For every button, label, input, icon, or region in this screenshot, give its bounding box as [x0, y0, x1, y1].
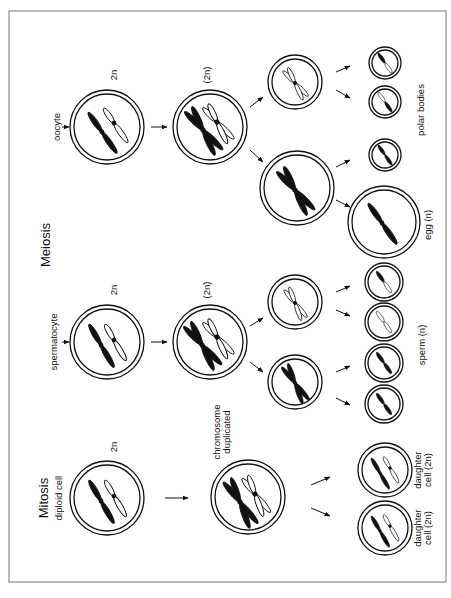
daughter-cell-label-line2: cell (2n) [422, 511, 433, 545]
spermatocyte-cell-duplicated [173, 305, 247, 379]
arrow-icon [336, 66, 350, 72]
daughter-cell [358, 501, 412, 555]
secondary-spermatocyte-cell [268, 275, 322, 329]
spermatocyte-cell-2n [70, 305, 144, 379]
mitosis-title: Mitosis [36, 477, 51, 518]
ploidy-label: 2n [108, 442, 119, 453]
arrow-icon [250, 362, 263, 372]
sperm-cell [365, 263, 403, 301]
polar-body-cell [369, 47, 401, 79]
arrow-icon [250, 97, 263, 107]
arrow-icon [336, 366, 350, 372]
daughter-cell [358, 443, 412, 497]
ploidy-label: (2n) [201, 67, 212, 84]
arrow-icon [250, 318, 263, 326]
secondary-spermatocyte-cell [268, 355, 322, 409]
polar-bodies-label: polar bodies [415, 84, 426, 136]
sperm-cell [365, 344, 403, 382]
arrow-icon [336, 398, 350, 405]
diploid-cell-label: diploid cell [53, 476, 64, 520]
chromosome-duplicated-label-line2: duplicated [221, 410, 232, 453]
arrow-icon [336, 286, 350, 292]
arrow-icon [250, 150, 263, 162]
meiosis-title: Meiosis [38, 222, 53, 267]
arrow-icon [311, 508, 330, 516]
ploidy-label: 2n [108, 285, 119, 296]
sperm-label: sperm (n) [416, 325, 427, 366]
sperm-cell [365, 303, 403, 341]
secondary-oocyte-cell [260, 151, 334, 225]
mitosis-row: Mitosis diploid cell 2n chromosome dupli… [36, 405, 433, 555]
ploidy-label: (2n) [201, 282, 212, 299]
arrow-icon [336, 200, 350, 207]
diploid-cell [70, 461, 144, 535]
oocyte-cell-2n [70, 90, 144, 164]
oocyte-row: oocyte 2n (2n) [51, 47, 433, 258]
ploidy-label: 2n [108, 70, 119, 81]
oocyte-cell-duplicated [173, 90, 247, 164]
egg-cell [348, 186, 420, 258]
mitosis-meiosis-diagram: oocyte 2n (2n) [0, 0, 451, 598]
polar-body-cell [369, 86, 401, 118]
arrow-icon [336, 310, 350, 316]
arrow-icon [336, 90, 350, 98]
egg-label: egg (n) [422, 210, 433, 240]
arrow-icon [311, 477, 330, 485]
spermatocyte-label: spermatocyte [48, 313, 59, 370]
polar-body-cell [369, 139, 401, 171]
oocyte-label: oocyte [51, 113, 62, 141]
arrow-icon [336, 160, 350, 167]
duplicated-cell [211, 460, 285, 534]
spermatocyte-row: spermatocyte 2n (2n) [48, 263, 427, 423]
daughter-cell-label-line2: cell (2n) [422, 453, 433, 487]
sperm-cell [365, 385, 403, 423]
first-polar-body-cell [268, 55, 322, 109]
